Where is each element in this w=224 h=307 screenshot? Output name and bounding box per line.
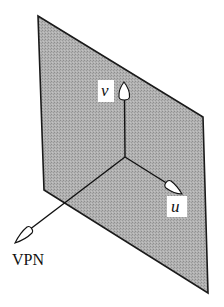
vpn-label: VPN — [12, 251, 44, 268]
v-label: v — [98, 80, 114, 102]
u-label-text: u — [171, 197, 180, 216]
view-plane — [38, 16, 208, 293]
view-plane-diagram: v u VPN — [0, 0, 224, 307]
v-label-text: v — [101, 81, 109, 100]
u-label: u — [167, 196, 187, 217]
vpn-arrowhead-icon — [15, 227, 33, 243]
